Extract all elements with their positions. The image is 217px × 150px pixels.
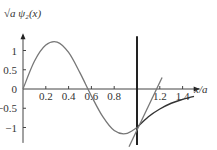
y-axis-title: √a ψ₂(x): [4, 7, 41, 20]
x-tick-label: 0.8: [107, 90, 121, 102]
series-wavefunction: [23, 42, 137, 134]
chart: 0.20.40.60.81.21.410.50−0.5−1 √a ψ₂(x) x…: [0, 0, 217, 150]
x-axis-title: x/a: [193, 83, 208, 95]
y-tick-label: 0: [12, 83, 18, 95]
y-tick-label: 1: [12, 45, 18, 57]
y-tick-label: 0.5: [3, 64, 17, 76]
x-tick-label: 0.2: [39, 90, 53, 102]
axes: 0.20.40.60.81.21.410.50−0.5−1: [0, 33, 200, 145]
x-tick-label: 0.4: [62, 90, 76, 102]
y-tick-label: −1: [5, 122, 17, 134]
y-tick-label: −0.5: [0, 102, 17, 114]
series-tangent-line: [129, 77, 162, 146]
y-axis-arrow: [21, 33, 26, 39]
